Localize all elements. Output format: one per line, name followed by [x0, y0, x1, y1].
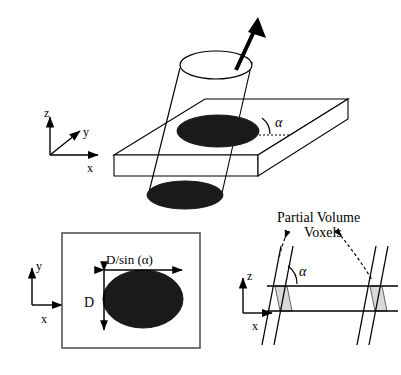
inplane-axis-x-label: x — [41, 312, 47, 326]
axis-x-label: x — [87, 161, 93, 175]
axes-3d: z y x — [44, 106, 98, 175]
side-axis-z-label: z — [247, 269, 252, 283]
side-angle-alpha-label: α — [299, 264, 307, 279]
panel-perspective: z y x — [44, 17, 348, 209]
cylinder-bottom-ellipse — [147, 181, 223, 209]
partial-volume-annotation: Partial Volume Voxels — [277, 210, 360, 240]
in-plane-vessel-ellipse — [103, 270, 183, 328]
angle-alpha-label: α — [275, 115, 283, 130]
slab-front-face — [114, 155, 258, 176]
axis-z-label: z — [44, 106, 49, 120]
axes-side-view: z x — [243, 269, 272, 333]
axes-in-plane: y x — [32, 259, 62, 326]
axis-y-arrow — [50, 131, 80, 155]
figure-root: z y x — [0, 0, 401, 375]
angle-alpha-annotation-side: α — [288, 264, 307, 284]
side-axis-x-label: x — [252, 319, 258, 333]
panel-in-plane: y x D/sin (α) D — [32, 233, 200, 348]
inplane-axis-y-label: y — [36, 259, 42, 273]
slice-cross-section-ellipse — [177, 115, 259, 147]
axis-y-label: y — [83, 125, 89, 139]
annotation-leader-lines — [279, 236, 372, 280]
side-angle-arc — [288, 266, 297, 284]
major-axis-label: D/sin (α) — [106, 252, 153, 267]
leader-line-right — [341, 236, 372, 280]
minor-axis-label: D — [84, 295, 94, 310]
diagram-svg: z y x — [0, 0, 401, 375]
partial-volume-line2: Voxels — [304, 225, 342, 240]
partial-volume-line1: Partial Volume — [277, 210, 360, 225]
panel-side-view: z x α Partial Volume Voxels — [243, 210, 398, 345]
